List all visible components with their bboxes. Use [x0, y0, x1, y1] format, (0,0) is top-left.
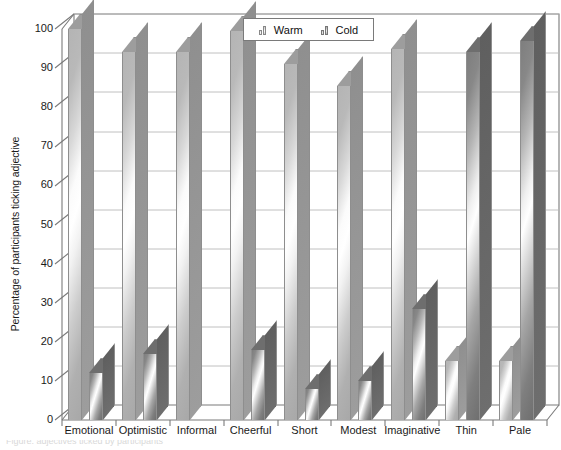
bar-face — [284, 64, 298, 420]
y-tick-label: 50 — [27, 218, 53, 230]
bar-optimistic-warm[interactable] — [122, 52, 136, 420]
bar-optimistic-cold[interactable] — [143, 354, 157, 420]
bar-face — [122, 52, 136, 420]
bar-series-icon-cold — [321, 24, 332, 35]
bar-side-face — [534, 11, 546, 420]
bar-side-face — [480, 22, 492, 420]
bar-side-face — [298, 34, 310, 420]
bar-side-face — [82, 0, 94, 420]
bar-thin-cold[interactable] — [466, 52, 480, 420]
bar-face — [412, 309, 426, 420]
bar-side-face — [190, 22, 202, 420]
bar-series-icon-warm — [259, 24, 270, 35]
y-tick-label: 90 — [27, 61, 53, 73]
bar-face — [391, 49, 405, 420]
y-tick-label: 80 — [27, 100, 53, 112]
legend-entry-cold[interactable]: Cold — [321, 24, 359, 36]
bar-face — [337, 86, 351, 420]
bar-short-cold[interactable] — [305, 389, 319, 420]
bar-short-warm[interactable] — [284, 64, 298, 420]
bar-side-face — [426, 279, 438, 420]
bar-pale-cold[interactable] — [520, 41, 534, 420]
y-tick-label: 30 — [27, 296, 53, 308]
y-tick-label: 10 — [27, 374, 53, 386]
legend-entry-warm[interactable]: Warm — [259, 24, 303, 36]
y-tick-label: 70 — [27, 139, 53, 151]
bar-informal-warm[interactable] — [176, 52, 190, 420]
legend-label-warm: Warm — [274, 24, 303, 36]
bar-pale-warm[interactable] — [499, 361, 513, 420]
bar-side-face — [157, 324, 169, 420]
bar-modest-cold[interactable] — [358, 381, 372, 420]
bar-face — [68, 29, 82, 420]
bar-side-face — [265, 320, 277, 420]
caption-artifact: Figure: adjectives ticked by participant… — [0, 440, 561, 450]
y-tick-label: 100 — [27, 22, 53, 34]
bar-face — [305, 389, 319, 420]
bar-cheerful-warm[interactable] — [230, 31, 244, 420]
legend-label-cold: Cold — [336, 24, 359, 36]
bar-imaginative-cold[interactable] — [412, 309, 426, 420]
y-tick-label: 20 — [27, 335, 53, 347]
y-tick-label: 40 — [27, 257, 53, 269]
bar-face — [358, 381, 372, 420]
bar-thin-warm[interactable] — [445, 361, 459, 420]
bar-face — [251, 350, 265, 420]
bar-face — [230, 31, 244, 420]
bar-face — [445, 361, 459, 420]
chart-legend[interactable]: Warm Cold — [243, 18, 374, 41]
x-tick-label-pale: Pale — [470, 424, 561, 436]
bar-face — [143, 354, 157, 420]
bar-face — [466, 52, 480, 420]
bar-face — [520, 41, 534, 420]
plot-area: 0102030405060708090100 EmotionalOptimist… — [0, 0, 561, 450]
bar-face — [499, 361, 513, 420]
chart-container: Percentage of participants ticking adjec… — [0, 0, 561, 450]
bar-face — [89, 373, 103, 420]
y-tick-label: 60 — [27, 178, 53, 190]
bar-emotional-warm[interactable] — [68, 29, 82, 420]
bar-face — [176, 52, 190, 420]
bar-side-face — [351, 56, 363, 420]
bar-imaginative-warm[interactable] — [391, 49, 405, 420]
bar-cheerful-cold[interactable] — [251, 350, 265, 420]
caption-text: Figure: adjectives ticked by participant… — [0, 440, 561, 446]
bar-modest-warm[interactable] — [337, 86, 351, 420]
bar-emotional-cold[interactable] — [89, 373, 103, 420]
